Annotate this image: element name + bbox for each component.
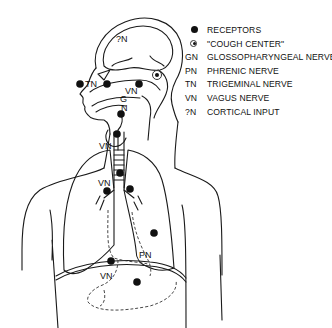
brain-outline <box>103 26 172 70</box>
receptor-dot <box>76 80 84 88</box>
label-phrenic: PN <box>139 250 152 260</box>
legend-item-cough-center: "COUGH CENTER" <box>185 38 332 52</box>
legend-item-glossopharyngeal: GN GLOSSOPHARYNGEAL NERVE <box>185 51 332 65</box>
receptor-dot-icon <box>185 24 201 38</box>
legend: RECEPTORS "COUGH CENTER" GN GLOSSOPHARYN… <box>185 24 332 119</box>
pharynx <box>142 96 151 140</box>
receptor-dot <box>116 169 124 177</box>
label-vagus-larynx: VN <box>99 141 112 151</box>
receptor-dot <box>133 278 141 286</box>
legend-item-cortical: ?N CORTICAL INPUT <box>185 106 332 120</box>
left-lung <box>64 150 115 274</box>
receptor-dot <box>103 80 111 88</box>
label-vagus-abdomen: VN <box>100 271 113 281</box>
label-trigeminal: TN <box>85 79 97 89</box>
vagus-abdomen-path <box>88 260 177 310</box>
neck-right <box>175 122 178 168</box>
receptor-dot <box>107 257 115 265</box>
torso-right <box>175 168 222 275</box>
legend-item-vagus: VN VAGUS NERVE <box>185 92 332 106</box>
label-cortical-input: ?N <box>116 34 128 44</box>
legend-item-receptors: RECEPTORS <box>185 24 332 38</box>
label-vagus-bronchi: VN <box>98 178 111 188</box>
cough-center-icon <box>185 38 201 52</box>
oral-cavity <box>92 97 140 106</box>
receptor-dot <box>113 130 121 138</box>
cough-center-marker <box>153 71 162 80</box>
receptor-dot <box>126 185 134 193</box>
legend-item-trigeminal: TN TRIGEMINAL NERVE <box>185 78 332 92</box>
receptor-dot <box>103 187 111 195</box>
label-glosso-n: N <box>121 103 128 113</box>
receptor-dot <box>150 229 158 237</box>
legend-item-phrenic: PN PHRENIC NERVE <box>185 65 332 79</box>
